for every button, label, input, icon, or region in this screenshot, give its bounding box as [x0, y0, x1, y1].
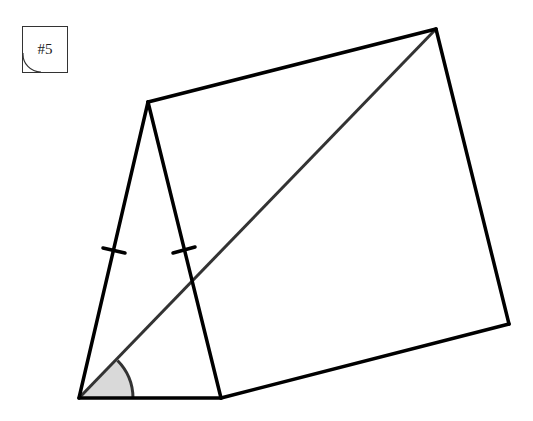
edge-BE — [221, 324, 509, 398]
edge-CD — [148, 29, 436, 102]
diagonal-AD — [79, 29, 436, 398]
tick-mark-AC — [103, 248, 125, 253]
edge-DE — [436, 29, 509, 324]
triangular-prism-diagram — [0, 0, 533, 421]
